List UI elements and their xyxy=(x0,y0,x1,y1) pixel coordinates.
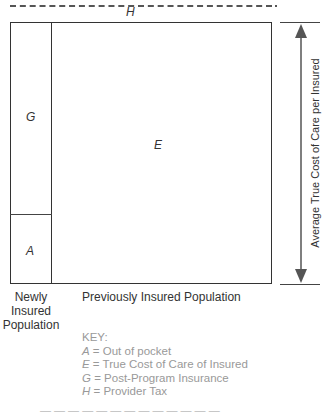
label-g: G xyxy=(26,110,35,124)
label-e: E xyxy=(154,138,162,152)
g-a-divider xyxy=(10,214,52,215)
key-title: KEY: xyxy=(82,331,248,345)
label-a: A xyxy=(26,244,34,258)
key-legend: KEY: A = Out of pocket E = True Cost of … xyxy=(82,331,248,399)
double-arrow-icon xyxy=(293,22,309,285)
cut-off-caption: — — — — — — — — — — — — — xyxy=(40,404,220,416)
key-item-e: E = True Cost of Care of Insured xyxy=(82,358,248,372)
newly-line-3: Population xyxy=(2,318,60,332)
population-divider xyxy=(51,22,52,284)
axis-label: Average True Cost of Care per Insured xyxy=(309,58,321,247)
newly-line-1: Newly xyxy=(2,290,60,304)
newly-insured-label: Newly Insured Population xyxy=(2,290,60,332)
dashed-line-end xyxy=(275,5,277,7)
key-item-g: G = Post-Program Insurance xyxy=(82,372,248,386)
previously-insured-label: Previously Insured Population xyxy=(82,290,241,304)
newly-line-2: Insured xyxy=(2,304,60,318)
label-h: H xyxy=(126,5,135,19)
key-item-h: H = Provider Tax xyxy=(82,385,248,399)
provider-tax-dashed-line xyxy=(10,5,272,7)
key-item-a: A = Out of pocket xyxy=(82,345,248,359)
cost-box xyxy=(10,22,272,284)
